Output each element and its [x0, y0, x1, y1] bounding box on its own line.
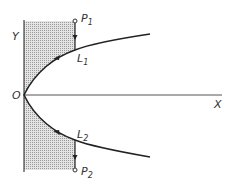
point-p2 [73, 168, 77, 172]
y-axis-label: Y [12, 30, 20, 43]
point-p1 [73, 19, 77, 23]
l2-label: L2 [77, 128, 88, 143]
x-axis-label: X [213, 98, 222, 111]
p1-label: P1 [81, 12, 93, 27]
p2-label: P2 [81, 165, 93, 180]
origin-label: O [12, 89, 21, 102]
diagram-canvas: Y O X P1 P2 L1 L2 [0, 0, 234, 186]
l1-label: L1 [77, 52, 88, 67]
